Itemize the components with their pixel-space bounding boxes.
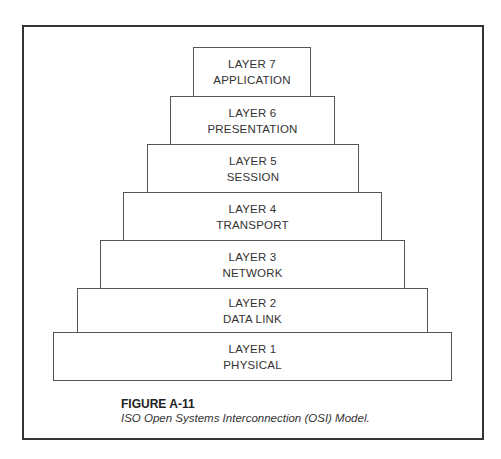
layer-name: PHYSICAL: [223, 357, 281, 373]
layer-2-data-link: LAYER 2 DATA LINK: [77, 288, 428, 333]
layer-number: LAYER 6: [229, 105, 277, 121]
layer-name: PRESENTATION: [207, 121, 297, 137]
layer-name: DATA LINK: [223, 311, 282, 327]
layer-number: LAYER 1: [229, 341, 277, 357]
layer-6-presentation: LAYER 6 PRESENTATION: [170, 96, 335, 145]
layer-name: NETWORK: [222, 265, 282, 281]
layer-7-application: LAYER 7 APPLICATION: [193, 47, 311, 97]
layer-number: LAYER 7: [228, 56, 276, 72]
figure-caption: FIGURE A-11 ISO Open Systems Interconnec…: [121, 397, 370, 425]
layer-number: LAYER 5: [229, 153, 277, 169]
layer-number: LAYER 4: [229, 201, 277, 217]
layer-3-network: LAYER 3 NETWORK: [100, 240, 405, 289]
layer-4-transport: LAYER 4 TRANSPORT: [123, 192, 382, 241]
figure-title: ISO Open Systems Interconnection (OSI) M…: [121, 411, 370, 425]
layer-number: LAYER 2: [229, 295, 277, 311]
layer-name: TRANSPORT: [216, 217, 289, 233]
layer-number: LAYER 3: [229, 249, 277, 265]
layer-name: SESSION: [227, 169, 280, 185]
figure-number: FIGURE A-11: [121, 397, 370, 411]
layer-1-physical: LAYER 1 PHYSICAL: [53, 332, 452, 381]
layer-5-session: LAYER 5 SESSION: [147, 144, 359, 193]
layer-name: APPLICATION: [213, 72, 290, 88]
